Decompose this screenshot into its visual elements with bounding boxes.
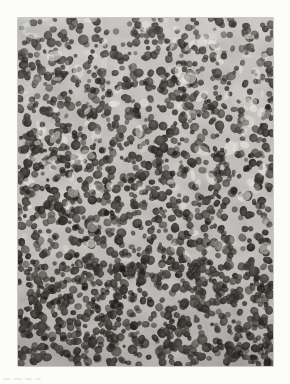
scan-smudge: [3, 371, 41, 380]
micrograph-plate: [18, 18, 273, 366]
smudge-mark: [3, 378, 11, 380]
smudge-mark: [35, 378, 41, 380]
smudge-mark: [25, 378, 32, 380]
smudge-mark: [14, 378, 22, 380]
micrograph-canvas: [18, 18, 273, 366]
figure-page: [0, 0, 290, 384]
